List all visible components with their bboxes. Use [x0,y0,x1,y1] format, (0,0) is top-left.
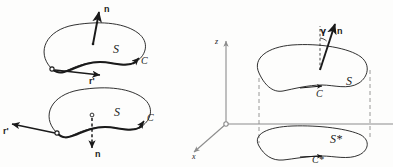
z-axis-label: z [215,38,218,46]
surface-label-lower-left: S [114,106,120,118]
normal-entry-point-lower-left [90,113,94,117]
curve-label-right: C [316,89,323,99]
x-axis-label: x [192,153,196,161]
curve-label-upper-left: C [141,56,148,66]
curve-label-lower-left: C [147,113,154,123]
normal-label-right: n [337,27,343,36]
origin-point [224,122,228,126]
base-point-lower-left [55,131,59,135]
normal-label-upper-left: n [104,5,110,14]
projected-curve-label-right: C* [312,155,324,165]
surface-label-right: S [346,75,352,87]
x-axis [194,124,226,152]
normal-vector-upper-left [93,12,99,44]
lower-left-surface-group [12,88,150,148]
tangent-label-upper-left: r' [89,77,95,86]
base-point-upper-left [50,67,54,71]
normal-foot-point-upper-left [92,43,95,46]
surface-label-upper-left: S [113,43,119,55]
axes-group [194,41,393,152]
projected-surface-label-right: S* [330,133,342,145]
figure-root: n S C r' S C n r' z x γ n S C S* C* [0,0,393,167]
tangent-vector-lower-left [12,124,55,133]
normal-label-lower-left: n [95,150,101,159]
boundary-curve-front-emphasis-lower-left [57,127,141,137]
angle-gamma-arc [320,38,327,41]
tangent-label-lower-left: r' [3,127,9,136]
angle-gamma-label: γ [320,27,326,36]
upper-left-surface-group [44,12,145,75]
